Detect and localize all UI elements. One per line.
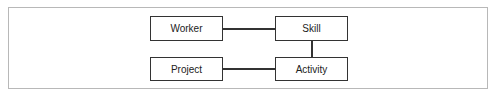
- node-project: Project: [150, 57, 223, 81]
- diagram-frame: [8, 7, 488, 89]
- node-activity-label: Activity: [296, 64, 328, 75]
- node-skill-label: Skill: [302, 23, 320, 34]
- node-project-label: Project: [171, 64, 202, 75]
- edge-skill-activity: [311, 40, 313, 57]
- node-skill: Skill: [275, 16, 348, 41]
- node-worker-label: Worker: [170, 23, 202, 34]
- node-activity: Activity: [275, 57, 348, 81]
- edge-project-activity: [222, 68, 275, 70]
- node-worker: Worker: [150, 16, 223, 41]
- edge-worker-skill: [222, 28, 275, 30]
